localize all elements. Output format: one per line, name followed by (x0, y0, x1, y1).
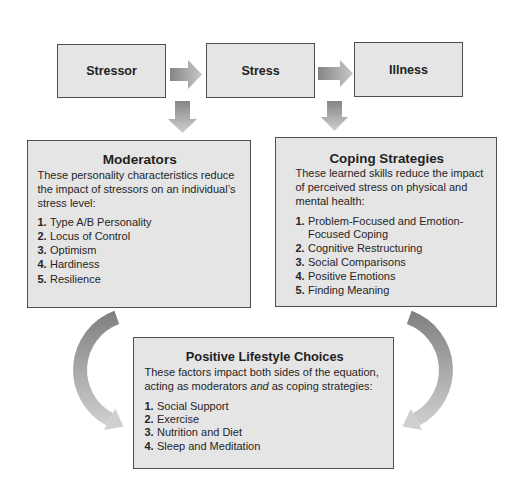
coping-description: These learned skills reduce the impact o… (296, 166, 479, 208)
lifestyle-title: Positive Lifestyle Choices (145, 349, 386, 365)
item-text: Locus of Control (50, 229, 242, 243)
list-item: 3.Nutrition and Diet (145, 426, 386, 439)
lifestyle-list: 1.Social Support 2.Exercise 3.Nutrition … (145, 400, 386, 454)
item-number: 4. (145, 440, 158, 453)
moderators-list: 1.Type A/B Personality 2.Locus of Contro… (38, 215, 243, 286)
list-item: 2.Exercise (145, 413, 386, 426)
description-emphasis: and (250, 380, 268, 392)
item-number: 1. (38, 215, 51, 229)
item-number: 3. (296, 256, 309, 270)
item-number: 1. (296, 215, 309, 243)
curved-arrow-right-icon (403, 317, 446, 430)
stress-box: Stress (206, 43, 315, 98)
list-item: 1.Social Support (145, 400, 386, 413)
description-line: These factors impact both sides of the e… (145, 365, 386, 379)
arrow-down-icon (321, 101, 348, 131)
list-item: 3.Optimism (38, 243, 243, 257)
coping-list: 1.Problem-Focused and Emotion-Focused Co… (296, 215, 479, 298)
lifestyle-description: These factors impact both sides of the e… (145, 365, 386, 393)
list-item: 5.Finding Meaning (296, 284, 479, 298)
coping-title: Coping Strategies (296, 151, 479, 166)
item-text: Type A/B Personality (50, 215, 242, 229)
illness-label: Illness (389, 63, 428, 77)
item-number: 1. (145, 400, 158, 413)
stressor-box: Stressor (57, 44, 166, 98)
item-number: 4. (38, 257, 51, 271)
item-text: Sleep and Meditation (157, 440, 385, 453)
list-item: 1.Problem-Focused and Emotion-Focused Co… (296, 215, 479, 243)
description-line: acting as moderators and as coping strat… (145, 379, 386, 393)
item-text: Cognitive Restructuring (308, 242, 478, 256)
illness-box: Illness (354, 42, 463, 97)
item-text: Resilience (50, 272, 242, 286)
description-text: as coping strategies: (269, 380, 373, 392)
moderators-description: These personality characteristics reduce… (38, 168, 243, 210)
list-item: 3.Social Comparisons (296, 256, 479, 270)
item-number: 2. (296, 242, 309, 256)
moderators-title: Moderators (38, 151, 243, 168)
description-line: stress level: (38, 196, 243, 210)
stressor-label: Stressor (86, 64, 137, 78)
list-item: 2.Locus of Control (38, 229, 243, 243)
item-text: Social Support (157, 400, 385, 413)
item-number: 3. (38, 243, 51, 257)
coping-strategies-box: Coping Strategies These learned skills r… (275, 137, 497, 307)
stress-label: Stress (241, 64, 279, 78)
description-line: These personality characteristics reduce (38, 168, 243, 182)
item-text: Nutrition and Diet (157, 426, 385, 439)
item-number: 5. (296, 284, 309, 298)
list-item: 4.Hardiness (38, 257, 243, 271)
item-text: Problem-Focused and Emotion-Focused Copi… (308, 215, 478, 243)
lifestyle-choices-box: Positive Lifestyle Choices These factors… (133, 337, 394, 469)
list-item: 2.Cognitive Restructuring (296, 242, 479, 256)
item-number: 4. (296, 270, 309, 284)
list-item: 5.Resilience (38, 272, 243, 286)
item-text: Positive Emotions (308, 270, 478, 284)
list-item: 4.Sleep and Meditation (145, 440, 386, 453)
description-text: acting as moderators (145, 380, 251, 392)
item-number: 3. (145, 426, 158, 439)
item-text: Optimism (50, 243, 242, 257)
curved-arrow-left-icon (80, 317, 123, 430)
item-text: Finding Meaning (308, 284, 478, 298)
arrow-right-icon (318, 60, 353, 87)
item-text: Hardiness (50, 257, 242, 271)
item-number: 5. (38, 272, 51, 286)
list-item: 1.Type A/B Personality (38, 215, 243, 229)
item-number: 2. (145, 413, 158, 426)
item-number: 2. (38, 229, 51, 243)
arrow-down-icon (168, 101, 197, 133)
arrow-right-icon (170, 60, 202, 89)
description-line: the impact of stressors on an individual… (38, 182, 243, 196)
description-line: These learned skills reduce the impact (296, 166, 479, 180)
list-item: 4.Positive Emotions (296, 270, 479, 284)
item-text: Exercise (157, 413, 385, 426)
item-text: Social Comparisons (308, 256, 478, 270)
description-line: mental health: (296, 194, 479, 208)
moderators-box: Moderators These personality characteris… (27, 140, 251, 308)
description-line: of perceived stress on physical and (296, 180, 479, 194)
